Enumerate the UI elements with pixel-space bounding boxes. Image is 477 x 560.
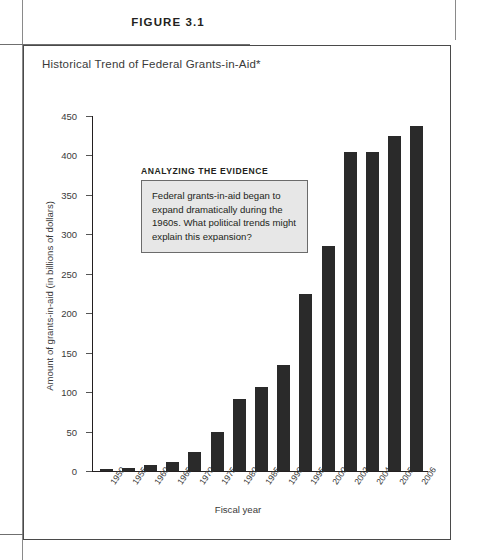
y-tick: 100 [86,392,92,393]
page-margin-rule-right [455,0,456,40]
bar [299,294,312,472]
bar-slot: 1955 [121,116,135,471]
bar-slot: 2002 [343,116,357,471]
y-axis-label: Amount of grants-in-aid (in billions of … [44,201,55,391]
bar-slot: 2004 [365,116,379,471]
bar [233,399,246,471]
analyzing-the-evidence-callout: ANALYZING THE EVIDENCE Federal grants-in… [141,166,308,253]
y-tick-label: 100 [61,387,77,398]
y-tick-label: 250 [61,268,77,279]
callout-heading: ANALYZING THE EVIDENCE [141,166,308,176]
bar [322,246,335,471]
y-tick-label: 350 [61,189,77,200]
y-tick-label: 400 [61,150,77,161]
y-tick-label: 50 [66,426,77,437]
figure-box: Historical Trend of Federal Grants-in-Ai… [23,45,451,540]
bar-slot: 2005 [388,116,402,471]
y-tick: 50 [86,432,92,433]
bar [166,462,179,471]
bar-slot: 1950 [99,116,113,471]
bar [144,465,157,471]
bar [188,452,201,471]
x-axis-label: Fiscal year [24,504,452,515]
bar [388,136,401,471]
bar [344,152,357,472]
bar [122,468,135,471]
bar [211,432,224,471]
y-tick-label: 0 [72,466,77,477]
y-tick-label: 150 [61,347,77,358]
chart-title: Historical Trend of Federal Grants-in-Ai… [42,58,261,70]
bar [100,469,113,471]
bar [255,387,268,471]
y-tick: 300 [86,234,92,235]
y-tick-label: 450 [61,111,77,122]
page-canvas: FIGURE 3.1 Historical Trend of Federal G… [0,0,477,560]
y-tick: 250 [86,274,92,275]
callout-body-text: Federal grants-in-aid began to expand dr… [141,180,308,253]
y-tick: 400 [86,155,92,156]
y-tick-label: 300 [61,229,77,240]
y-tick: 0 [86,471,92,472]
bar [410,126,423,471]
bar [366,152,379,472]
bar [277,365,290,472]
figure-number-label: FIGURE 3.1 [23,16,313,28]
bar-slot: 2006 [410,116,424,471]
y-tick: 150 [86,353,92,354]
bar-slot: 2000 [321,116,335,471]
y-tick: 350 [86,195,92,196]
y-tick: 200 [86,313,92,314]
y-tick: 450 [86,116,92,117]
y-tick-label: 200 [61,308,77,319]
